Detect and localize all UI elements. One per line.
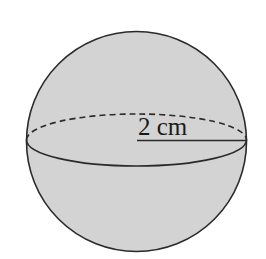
- radius-label: 2 cm: [138, 113, 188, 140]
- sphere-diagram: 2 cm: [0, 0, 266, 259]
- sphere-outline: [27, 32, 247, 252]
